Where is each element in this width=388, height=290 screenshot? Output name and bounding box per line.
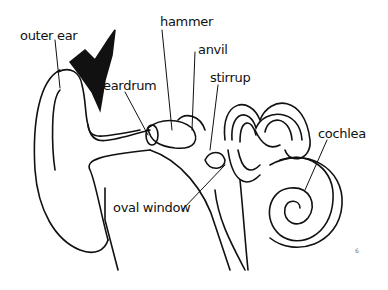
label-cochlea: cochlea: [318, 126, 366, 141]
label-outer-ear: outer ear: [20, 28, 77, 43]
ear-diagram: outer ear hammer anvil eardrum stirrup c…: [0, 0, 388, 290]
label-anvil: anvil: [198, 42, 228, 57]
label-oval-window: oval window: [113, 200, 190, 215]
ear-drawing: [0, 0, 388, 290]
label-hammer: hammer: [160, 14, 213, 29]
page-number: 6: [355, 247, 359, 254]
label-eardrum: eardrum: [103, 78, 156, 93]
label-stirrup: stirrup: [210, 70, 250, 85]
